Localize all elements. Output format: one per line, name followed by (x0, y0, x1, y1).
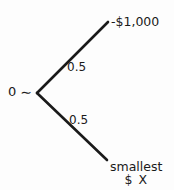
outcome-label-lower: smallest $ X (110, 160, 162, 186)
probability-tree-diagram: 0∼ 0.5 0.5 -$1,000 smallest $ X (0, 0, 174, 190)
outcome-label-upper: -$1,000 (111, 15, 159, 28)
branch-line-upper (37, 22, 108, 93)
root-node-value: 0 (8, 84, 17, 99)
probability-label-upper: 0.5 (67, 61, 86, 74)
outcome-label-lower-line2: $ X (110, 173, 162, 186)
root-node-label: 0∼ (8, 84, 33, 99)
probability-label-lower: 0.5 (69, 114, 88, 127)
tilde-icon: ∼ (17, 84, 33, 100)
